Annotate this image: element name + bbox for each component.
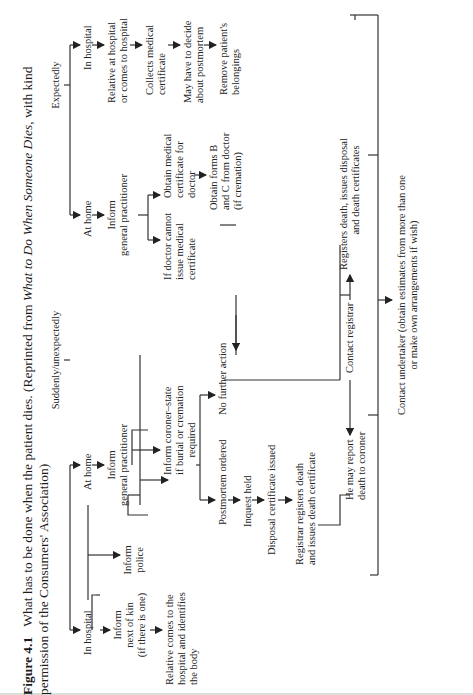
sudden-in-hospital: In hospital bbox=[82, 610, 94, 655]
obtain-forms-b-c: Obtain forms B and C from doctor (if cre… bbox=[208, 133, 244, 210]
collects-medical-certificate: Collects medical certificate bbox=[144, 25, 168, 95]
obtain-medical-certificate: Obtain medical certificate for doctor bbox=[162, 134, 198, 198]
may-report-to-coroner: He may report death to coroner bbox=[344, 432, 368, 500]
inform-police: Inform police bbox=[122, 530, 146, 590]
book-page: Figure 4.1 What has to be done when the … bbox=[0, 0, 473, 695]
remove-belongings: Remove patient's belongings bbox=[218, 23, 242, 95]
decide-about-postmortem: May have to decide about postmortem bbox=[182, 20, 206, 103]
relative-identifies-body: Relative comes to the hospital and ident… bbox=[164, 592, 200, 685]
contact-undertaker: Contact undertaker (obtain estimates fro… bbox=[396, 130, 420, 460]
contact-registrar: Contact registrar bbox=[344, 303, 356, 373]
registrar-registers-death: Registrar registers death and issues dea… bbox=[294, 452, 318, 565]
expected-inform-gp: Inform general practitioner bbox=[106, 160, 130, 270]
suddenly-header: Suddenly/unexpectedly bbox=[50, 310, 62, 410]
relative-at-hospital: Relative at hospital or comes to hospita… bbox=[106, 18, 130, 103]
no-further-action: No further action bbox=[217, 343, 229, 415]
inform-next-of-kin: Inform next of kin (if there is one) bbox=[112, 580, 148, 670]
doctor-cannot-issue: If doctor cannot issue medical certifica… bbox=[162, 213, 198, 280]
postmortem-ordered: Postmortem ordered bbox=[217, 440, 229, 525]
sudden-inform-gp: Inform general practitioner bbox=[106, 410, 130, 520]
expectedly-header: Expectedly bbox=[50, 45, 62, 125]
disposal-certificate-issued: Disposal certificate issued bbox=[266, 445, 278, 555]
registers-death-issues-certificates: Registers death, issues disposal and dea… bbox=[338, 110, 362, 270]
inquest-held: Inquest held bbox=[242, 475, 254, 527]
inform-coroner: Inform coroner–state if burial or cremat… bbox=[162, 385, 198, 475]
expected-at-home: At home bbox=[82, 201, 94, 237]
expected-in-hospital: In hospital bbox=[82, 25, 94, 70]
sudden-at-home: At home bbox=[82, 454, 94, 490]
